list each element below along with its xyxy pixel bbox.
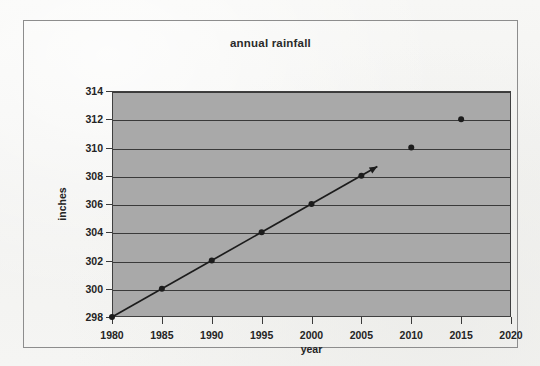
x-tick-mark — [262, 317, 263, 324]
data-point-marker — [358, 173, 364, 179]
x-tick-mark — [511, 317, 512, 324]
x-tick-label: 1980 — [100, 329, 123, 341]
y-tick-label: 304 — [85, 226, 103, 238]
data-point-marker — [259, 229, 265, 235]
data-point-marker — [109, 314, 115, 320]
plot-wrapper: 298300302304306308310312314 198019851990… — [112, 91, 511, 317]
y-tick-label: 312 — [85, 113, 103, 125]
chart-title: annual rainfall — [24, 37, 517, 49]
y-tick-label: 314 — [85, 85, 103, 97]
x-tick-label: 2020 — [499, 329, 522, 341]
x-tick-mark — [361, 317, 362, 324]
data-point-marker — [209, 258, 215, 264]
x-tick-mark — [312, 317, 313, 324]
x-tick-label: 1990 — [200, 329, 223, 341]
data-point-marker — [309, 201, 315, 207]
y-tick-label: 300 — [85, 283, 103, 295]
x-tick-label: 2010 — [400, 329, 423, 341]
series-group — [109, 116, 464, 320]
x-tick-mark — [411, 317, 412, 324]
x-tick-label: 1985 — [150, 329, 173, 341]
data-layer — [112, 91, 511, 317]
x-tick-label: 2000 — [300, 329, 323, 341]
x-tick-label: 2015 — [449, 329, 472, 341]
data-point-marker — [458, 116, 464, 122]
x-tick-mark — [212, 317, 213, 324]
x-tick-mark — [162, 317, 163, 324]
data-point-marker — [408, 145, 414, 151]
y-tick-label: 310 — [85, 142, 103, 154]
trend-line — [112, 167, 377, 317]
x-tick-label: 1995 — [250, 329, 273, 341]
x-axis-title: year — [112, 343, 511, 355]
x-tick-mark — [461, 317, 462, 324]
x-tick-label: 2005 — [350, 329, 373, 341]
data-point-marker — [159, 286, 165, 292]
y-tick-label: 306 — [85, 198, 103, 210]
y-tick-label: 298 — [85, 311, 103, 323]
y-tick-label: 302 — [85, 255, 103, 267]
figure-frame: annual rainfall inches year 298300302304… — [23, 20, 518, 348]
y-axis-title: inches — [56, 187, 68, 220]
y-tick-label: 308 — [85, 170, 103, 182]
